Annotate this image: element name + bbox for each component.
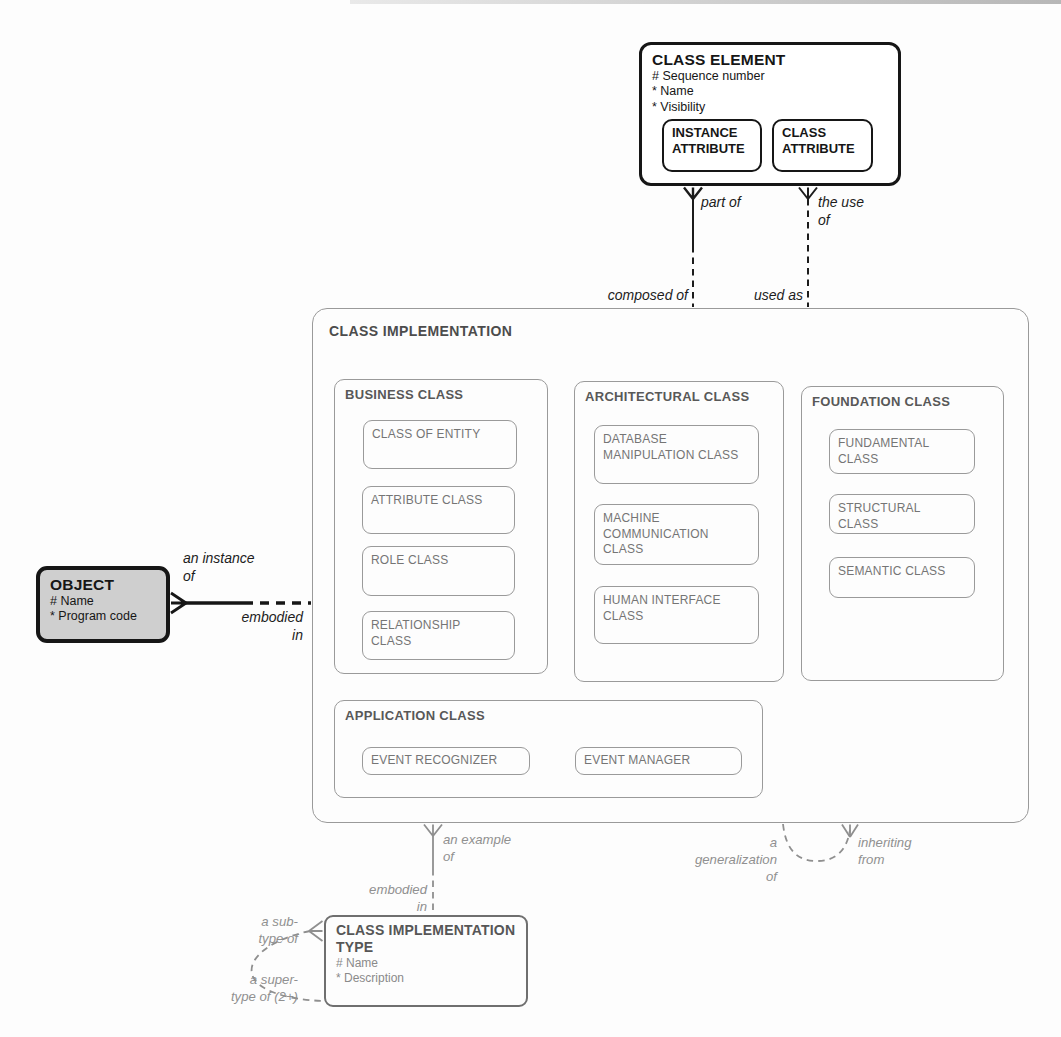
entity-title: CLASS ELEMENT [652, 51, 888, 69]
leaf-event-recognizer: EVENT RECOGNIZER [362, 747, 530, 775]
subtype-application-class: APPLICATION CLASS EVENT RECOGNIZER EVENT… [334, 700, 763, 798]
leaf-fundamental-class: FUNDAMENTAL CLASS [829, 429, 975, 474]
entity-class-element: CLASS ELEMENT # Sequence number * Name *… [639, 42, 901, 186]
subtype-business-class: BUSINESS CLASS CLASS OF ENTITY ATTRIBUTE… [334, 379, 548, 674]
entity-class-implementation-type: CLASS IMPLEMENTATION TYPE # Name * Descr… [324, 915, 528, 1007]
label-an-instance-of: an instance of [183, 549, 255, 585]
leaf-semantic-class: SEMANTIC CLASS [829, 557, 975, 598]
leaf-database-manipulation-class: DATABASE MANIPULATION CLASS [594, 425, 759, 484]
label-used-as: used as [715, 286, 803, 304]
attribute-name: * Name [652, 84, 888, 100]
attribute-description: * Description [336, 971, 516, 987]
entity-title: CLASS IMPLEMENTATION [329, 323, 512, 339]
crowfoot-an-instance-of [171, 593, 186, 613]
crowfoot-an-example-of [424, 825, 442, 837]
subtype-foundation-class: FOUNDATION CLASS FUNDAMENTAL CLASS STRUC… [801, 386, 1004, 681]
label-part-of: part of [701, 193, 741, 211]
entity-title: OBJECT [50, 576, 156, 594]
crowfoot-a-sub-type-of [309, 921, 323, 941]
crowfoot-the-use-of [799, 188, 817, 200]
label-embodied-in-object: embodied in [213, 608, 303, 644]
subtype-title: FOUNDATION CLASS [812, 394, 950, 409]
label-a-generalization-of: a generalization of [687, 834, 777, 885]
attribute-sequence-number: # Sequence number [652, 69, 888, 85]
leaf-machine-communication-class: MACHINE COMMUNICATION CLASS [594, 504, 759, 565]
label-inheriting-from: inheriting from [858, 834, 912, 868]
label-a-super-type-of: a super- type of (2+) [205, 971, 298, 1005]
label-composed-of: composed of [598, 286, 688, 304]
subtype-title: BUSINESS CLASS [345, 387, 463, 402]
attribute-visibility: * Visibility [652, 100, 888, 116]
subtype-instance-attribute: INSTANCE ATTRIBUTE [662, 119, 762, 172]
attribute-program-code: * Program code [50, 609, 156, 625]
leaf-event-manager: EVENT MANAGER [575, 747, 742, 775]
label-an-example-of: an example of [443, 831, 511, 865]
crowfoot-part-of [684, 188, 702, 200]
attribute-name: # Name [50, 594, 156, 610]
arc-generalization-inheriting [783, 824, 858, 861]
label-a-sub-type-of: a sub- type of [225, 913, 298, 947]
label-the-use-of: the use of [818, 193, 864, 229]
leaf-class-of-entity: CLASS OF ENTITY [363, 420, 517, 469]
subtype-title: APPLICATION CLASS [345, 708, 485, 723]
label-embodied-in-type: embodied in [337, 881, 427, 915]
leaf-human-interface-class: HUMAN INTERFACE CLASS [594, 586, 759, 644]
leaf-structural-class: STRUCTURAL CLASS [829, 494, 975, 534]
entity-class-implementation: CLASS IMPLEMENTATION BUSINESS CLASS CLAS… [312, 308, 1029, 823]
attribute-name: # Name [336, 956, 516, 972]
leaf-relationship-class: RELATIONSHIP CLASS [362, 611, 515, 660]
leaf-attribute-class: ATTRIBUTE CLASS [362, 486, 515, 534]
page-scan-artifact [350, 0, 1061, 4]
entity-title: CLASS IMPLEMENTATION TYPE [336, 922, 516, 956]
subtype-title: ARCHITECTURAL CLASS [585, 389, 749, 404]
entity-object: OBJECT # Name * Program code [36, 566, 170, 643]
subtype-architectural-class: ARCHITECTURAL CLASS DATABASE MANIPULATIO… [574, 381, 784, 682]
subtype-class-attribute: CLASS ATTRIBUTE [772, 119, 873, 172]
diagram-canvas: CLASS ELEMENT # Sequence number * Name *… [0, 0, 1061, 1037]
leaf-role-class: ROLE CLASS [362, 546, 515, 596]
crowfoot-inheriting-from [842, 825, 858, 838]
